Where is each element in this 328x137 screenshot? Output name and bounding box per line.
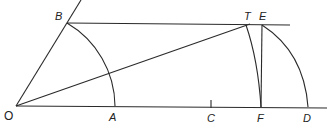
line-ef	[261, 25, 262, 107]
label-b: B	[55, 10, 62, 22]
label-d: D	[303, 112, 311, 124]
label-t: T	[244, 10, 252, 22]
arc-ed	[262, 25, 308, 107]
label-o: O	[4, 109, 13, 123]
baseline-line	[16, 106, 327, 108]
arc-ba	[67, 23, 115, 106]
line-be	[67, 23, 290, 25]
ray-ob	[16, 0, 81, 106]
label-c: C	[207, 112, 215, 124]
curve-tf	[246, 25, 261, 107]
label-f: F	[257, 112, 265, 124]
line-ot	[16, 24, 250, 106]
label-a: A	[108, 111, 116, 123]
geometric-diagram: O A B T E C F D	[0, 0, 328, 137]
label-e: E	[259, 10, 267, 22]
